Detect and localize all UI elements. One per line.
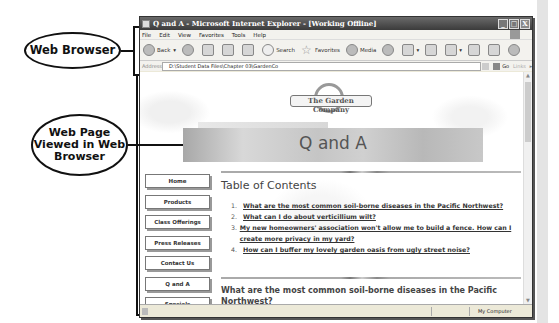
window-title: Q and A - Microsoft Internet Explorer - …: [153, 19, 497, 28]
media-button[interactable]: Media: [346, 44, 377, 56]
toc-link[interactable]: What can I do about verticillium wilt?: [243, 211, 376, 222]
messenger-icon: [508, 44, 520, 56]
refresh-button[interactable]: [222, 44, 236, 56]
vertical-scrollbar[interactable]: ▲ ▼: [523, 72, 532, 305]
toc-number: 3.: [231, 222, 240, 244]
forward-arrow-icon: [182, 44, 194, 56]
go-label: Go: [502, 63, 509, 69]
menu-bar: File Edit View Favorites Tools Help: [140, 30, 532, 39]
history-button[interactable]: [382, 44, 396, 56]
nav-home[interactable]: Home: [145, 174, 210, 188]
menu-edit[interactable]: Edit: [159, 32, 170, 38]
scroll-thumb[interactable]: [525, 82, 531, 142]
toc-heading: Table of Contents: [221, 179, 521, 192]
edit-icon: [445, 44, 457, 56]
toc-list: 1.What are the most common soil-borne di…: [221, 200, 521, 255]
nav-class-offerings[interactable]: Class Offerings: [145, 215, 210, 229]
back-label: Back: [157, 47, 170, 53]
discuss-button[interactable]: [468, 44, 482, 56]
page-banner: Q and A: [183, 128, 483, 162]
callout-web-browser: Web Browser: [24, 32, 121, 69]
media-icon: [346, 44, 358, 56]
messenger-button[interactable]: [508, 44, 522, 56]
nav-contact-us[interactable]: Contact Us: [145, 256, 210, 270]
menu-view[interactable]: View: [178, 32, 191, 38]
logo-text: The Garden Company: [290, 95, 372, 107]
toc-number: 4.: [231, 244, 243, 255]
search-label: Search: [276, 47, 295, 53]
discuss-icon: [468, 44, 480, 56]
address-dropdown-icon[interactable]: [482, 63, 489, 70]
research-icon: [488, 44, 500, 56]
close-button[interactable]: X: [520, 19, 530, 29]
status-bar: My Computer: [140, 304, 532, 317]
stop-icon: [202, 44, 214, 56]
menu-help[interactable]: Help: [253, 32, 266, 38]
go-button[interactable]: Go: [493, 63, 509, 70]
home-button[interactable]: [242, 44, 256, 56]
background-strip: [537, 0, 548, 323]
callout-web-page: Web Page Viewed in Web Browser: [31, 114, 128, 176]
maximize-button[interactable]: □: [509, 19, 519, 29]
home-icon: [242, 44, 254, 56]
research-button[interactable]: [488, 44, 502, 56]
print-icon: [425, 44, 437, 56]
toc-item: 3.My new homeowners' association won't a…: [231, 222, 521, 244]
security-zone: My Computer: [469, 307, 529, 316]
favorites-label: Favorites: [315, 47, 340, 53]
links-button[interactable]: Links: [513, 63, 526, 69]
back-button[interactable]: Back ▾: [143, 44, 176, 56]
garden-company-logo: The Garden Company: [290, 83, 372, 116]
menu-file[interactable]: File: [142, 32, 151, 38]
question-heading: What are the most common soil-borne dise…: [221, 285, 501, 305]
nav-press-releases[interactable]: Press Releases: [145, 236, 210, 250]
star-icon: ☆: [301, 44, 313, 56]
status-separator: [431, 307, 432, 316]
stop-button[interactable]: [202, 44, 216, 56]
menu-tools[interactable]: Tools: [232, 32, 246, 38]
toc-number: 2.: [231, 211, 243, 222]
address-input[interactable]: D:\Student Data Files\Chapter 03\GardenC…: [162, 62, 481, 71]
ie-icon: [142, 20, 150, 28]
toc-item: 2.What can I do about verticillium wilt?: [231, 211, 521, 222]
menu-favorites[interactable]: Favorites: [199, 32, 224, 38]
table-of-contents: Table of Contents 1.What are the most co…: [221, 179, 521, 255]
media-label: Media: [360, 47, 377, 53]
address-label: Address: [142, 63, 162, 69]
chevron-right-icon[interactable]: »: [529, 63, 532, 69]
address-bar: Address D:\Student Data Files\Chapter 03…: [140, 60, 532, 71]
search-button[interactable]: Search: [262, 44, 295, 56]
go-arrow-icon: [493, 63, 500, 70]
print-button[interactable]: [425, 44, 439, 56]
mail-button[interactable]: ▾: [402, 44, 419, 56]
bracket-browser: [133, 26, 135, 76]
mail-icon: [402, 44, 414, 56]
toc-item: 1.What are the most common soil-borne di…: [231, 200, 521, 211]
toc-link[interactable]: What are the most common soil-borne dise…: [243, 200, 503, 211]
nav-products[interactable]: Products: [145, 195, 210, 209]
forward-button[interactable]: [182, 44, 196, 56]
edit-button[interactable]: ▾: [445, 44, 462, 56]
web-page-viewport: The Garden Company Q and A Home Products…: [140, 72, 532, 305]
history-icon: [382, 44, 394, 56]
toolbar: Back ▾ Search ☆ Favorites Media ▾ ▾: [140, 39, 532, 60]
search-icon: [262, 44, 274, 56]
site-nav: Home Products Class Offerings Press Rele…: [145, 174, 210, 305]
toc-link[interactable]: How can I buffer my lovely garden oasis …: [243, 244, 470, 255]
decorative-divider: [221, 277, 521, 279]
toc-link[interactable]: My new homeowners' association won't all…: [240, 222, 521, 244]
nav-q-and-a[interactable]: Q and A: [145, 277, 210, 291]
decorative-divider: [221, 171, 521, 173]
bracket-page: [136, 75, 138, 316]
refresh-icon: [222, 44, 234, 56]
minimize-button[interactable]: _: [498, 19, 508, 29]
callout-connector: [128, 144, 183, 146]
scroll-up-icon[interactable]: ▲: [524, 72, 532, 80]
title-bar: Q and A - Microsoft Internet Explorer - …: [140, 17, 532, 30]
back-arrow-icon: [143, 44, 155, 56]
toc-item: 4.How can I buffer my lovely garden oasi…: [231, 244, 521, 255]
page-icon: [142, 308, 148, 315]
favorites-button[interactable]: ☆ Favorites: [301, 44, 340, 56]
windows-logo-icon: [510, 30, 520, 39]
browser-window: Q and A - Microsoft Internet Explorer - …: [139, 16, 533, 318]
